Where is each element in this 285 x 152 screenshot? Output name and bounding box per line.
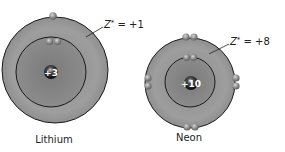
electron-icon bbox=[46, 38, 53, 45]
electron-icon bbox=[191, 123, 198, 130]
lithium-effective-charge: Z* = +1 bbox=[103, 19, 144, 30]
electron-icon bbox=[54, 38, 61, 45]
electron-icon bbox=[183, 123, 190, 130]
electron-icon bbox=[190, 54, 197, 61]
electron-icon bbox=[183, 54, 190, 61]
electron-icon bbox=[144, 82, 151, 89]
neon-nuclear-charge: +10 bbox=[181, 79, 201, 89]
lithium-label: Lithium bbox=[35, 134, 72, 145]
neon-effective-charge: Z* = +8 bbox=[229, 36, 270, 47]
electron-icon bbox=[190, 33, 197, 40]
electron-icon bbox=[49, 12, 57, 20]
electron-icon bbox=[182, 33, 189, 40]
lithium-atom: +3 Z* = +1 Lithium bbox=[2, 12, 144, 145]
lithium-nuclear-charge: +3 bbox=[44, 68, 58, 78]
neon-atom: +10 Z* = +8 Neon bbox=[144, 33, 269, 143]
electron-icon bbox=[232, 74, 239, 81]
neon-label: Neon bbox=[176, 132, 202, 143]
electron-icon bbox=[144, 74, 151, 81]
electron-icon bbox=[232, 82, 239, 89]
atom-diagram: +3 Z* = +1 Lithium +10 Z* = +8 Neon bbox=[0, 0, 285, 152]
